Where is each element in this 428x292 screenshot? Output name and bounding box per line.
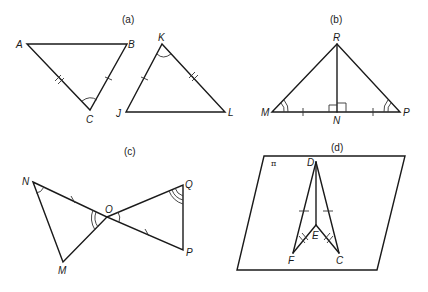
panel-d-caption: (d)	[331, 142, 343, 153]
angle-o-right-arc	[118, 212, 120, 222]
vertex-r-label: R	[333, 32, 340, 43]
panel-c: (c) N O Q P M	[22, 146, 193, 276]
vertex-p-label: P	[186, 247, 193, 258]
vertex-j-label: J	[115, 108, 122, 119]
panel-a-caption: (a)	[122, 14, 134, 25]
vertex-c-label: C	[336, 255, 344, 266]
vertex-k-label: K	[158, 32, 166, 43]
panel-d: (d) π D E F C	[237, 142, 405, 270]
triangle-oqp	[107, 185, 183, 250]
congruent-triangles-figure: (a) A B C J K L (b)	[0, 0, 428, 292]
vertex-b-label: B	[128, 39, 135, 50]
side-kl-double-tick	[189, 72, 198, 81]
panel-c-caption: (c)	[124, 146, 136, 157]
plane-pi	[237, 156, 405, 270]
plane-pi-label: π	[271, 159, 276, 168]
side-ec-double-tick	[324, 233, 333, 243]
angle-k-arc	[157, 54, 171, 57]
vertex-o-label: O	[105, 204, 113, 215]
side-ef-double-tick	[299, 233, 308, 243]
vertex-l-label: L	[228, 107, 234, 118]
vertex-p-label: P	[403, 107, 410, 118]
vertex-n-label: N	[333, 115, 341, 126]
vertex-m-label: M	[261, 107, 270, 118]
vertex-d-label: D	[307, 157, 314, 168]
triangle-mrp	[272, 44, 400, 112]
panel-a: (a) A B C J K L	[15, 14, 234, 125]
right-angle-right	[337, 103, 346, 112]
vertex-n-label: N	[22, 176, 30, 187]
panel-b: (b) R M N P	[261, 14, 410, 126]
vertex-c-label: C	[86, 114, 94, 125]
triangle-abc	[27, 44, 127, 110]
right-angle-left	[329, 105, 337, 112]
vertex-q-label: Q	[185, 179, 193, 190]
panel-b-caption: (b)	[330, 14, 342, 25]
side-ac-double-tick	[55, 75, 64, 84]
triangle-jkl	[126, 44, 225, 112]
vertex-a-label: A	[15, 39, 23, 50]
vertex-e-label: E	[312, 230, 319, 241]
vertex-m-label: M	[58, 265, 67, 276]
vertex-f-label: F	[288, 255, 295, 266]
